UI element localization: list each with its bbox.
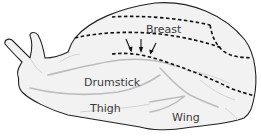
label-thigh: Thigh	[89, 102, 121, 115]
poultry-carcass-diagram: Breast Drumstick Thigh Wing	[0, 0, 261, 138]
label-drumstick: Drumstick	[84, 76, 141, 89]
label-wing: Wing	[172, 111, 200, 124]
carcass-outline	[5, 3, 256, 130]
label-breast: Breast	[146, 23, 182, 36]
